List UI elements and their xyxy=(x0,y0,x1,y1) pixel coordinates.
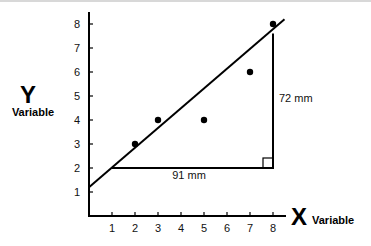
x-tick-label: 5 xyxy=(201,222,207,234)
data-points xyxy=(132,21,276,147)
x-tick-label: 8 xyxy=(270,222,276,234)
x-tick-label: 1 xyxy=(109,222,115,234)
x-tick-label: 2 xyxy=(132,222,138,234)
data-point xyxy=(155,117,161,123)
x-axis-title: X xyxy=(291,203,307,230)
data-point xyxy=(132,141,138,147)
y-axis-subtitle: Variable xyxy=(12,106,54,118)
y-tick-label: 7 xyxy=(74,42,80,54)
x-axis-subtitle: Variable xyxy=(312,214,354,226)
y-tick-label: 6 xyxy=(74,66,80,78)
y-tick-label: 5 xyxy=(74,90,80,102)
scatter-chart: 1234567812345678 Y Variable X Variable 9… xyxy=(0,0,371,246)
data-point xyxy=(201,117,207,123)
y-tick-label: 3 xyxy=(74,138,80,150)
data-point xyxy=(247,69,253,75)
x-tick-label: 7 xyxy=(247,222,253,234)
best-fit-line xyxy=(89,19,285,187)
ticks: 1234567812345678 xyxy=(74,18,276,234)
x-tick-label: 4 xyxy=(178,222,184,234)
y-tick-label: 1 xyxy=(74,186,80,198)
x-tick-label: 6 xyxy=(224,222,230,234)
y-tick-label: 4 xyxy=(74,114,80,126)
trend-line xyxy=(89,19,285,187)
x-tick-label: 3 xyxy=(155,222,161,234)
run-measurement-label: 91 mm xyxy=(172,169,206,181)
y-axis-title: Y xyxy=(20,81,36,108)
data-point xyxy=(270,21,276,27)
y-tick-label: 2 xyxy=(74,162,80,174)
rise-measurement-label: 72 mm xyxy=(279,92,313,104)
right-angle-marker xyxy=(263,158,273,168)
y-tick-label: 8 xyxy=(74,18,80,30)
